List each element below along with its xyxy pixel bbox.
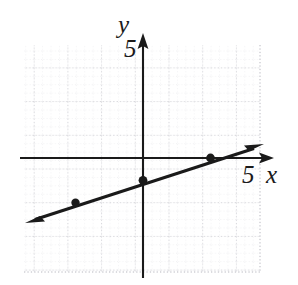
x-axis-tick-label-5: 5 bbox=[242, 162, 255, 187]
y-axis-label: y bbox=[118, 12, 129, 37]
coordinate-plane-svg bbox=[0, 0, 298, 285]
x-axis-label: x bbox=[266, 162, 277, 187]
y-axis-tick-label-5: 5 bbox=[124, 36, 137, 61]
graph-figure: y 5 5 x bbox=[0, 0, 298, 285]
point-marker bbox=[206, 154, 215, 163]
point-marker bbox=[139, 176, 148, 185]
point-marker bbox=[71, 199, 79, 207]
